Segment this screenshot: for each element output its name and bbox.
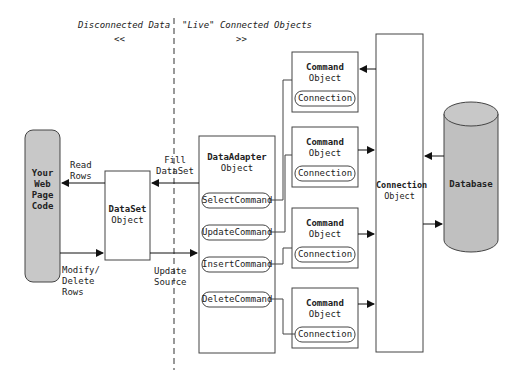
connection-object: ConnectionObject (376, 180, 423, 202)
update-source-label: UpdateSource (154, 266, 187, 288)
update-command: UpdateCommand (202, 227, 270, 238)
command-connection-4: Connection (295, 329, 355, 340)
diagram-canvas (0, 0, 521, 385)
command-connection-2: Connection (295, 168, 355, 179)
command-object-1: CommandObject (292, 62, 358, 84)
database-label: Database (444, 179, 498, 190)
disconnected-arrow: << (114, 34, 125, 45)
disconnected-data-label: Disconnected Data (78, 20, 170, 31)
fill-dataset-label: FillDataSet (156, 155, 194, 177)
select-command: SelectCommand (202, 195, 270, 206)
modify-rows-label: Modify/DeleteRows (62, 265, 100, 298)
command-object-3: CommandObject (292, 218, 358, 240)
web-page-code: Your Web Page Code (25, 168, 60, 212)
command-object-4: CommandObject (292, 298, 358, 320)
dataset-object: DataSetObject (105, 204, 150, 226)
insert-command: InsertCommand (202, 259, 270, 270)
delete-command: DeleteCommand (202, 294, 270, 305)
command-connection-3: Connection (295, 249, 355, 260)
command-connection-1: Connection (295, 93, 355, 104)
connected-objects-label: "Live" Connected Objects (182, 20, 312, 31)
dataadapter-object: DataAdapterObject (199, 152, 275, 174)
read-rows-label: ReadRows (70, 160, 92, 182)
command-object-2: CommandObject (292, 137, 358, 159)
connected-arrow: >> (236, 34, 247, 45)
